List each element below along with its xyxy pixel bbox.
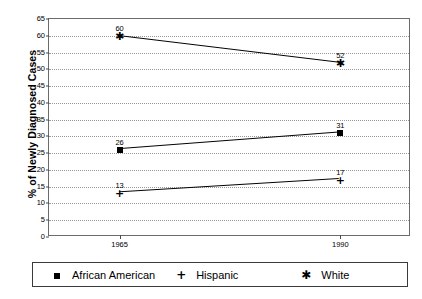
data-point-label: 52 xyxy=(336,51,344,59)
chart-legend: African American + Hispanic ✱ White xyxy=(32,262,408,287)
data-point-label: 26 xyxy=(115,138,123,146)
y-tick-label: 35 xyxy=(37,116,45,124)
legend-label: White xyxy=(321,269,349,281)
series-line-1 xyxy=(119,179,339,192)
x-tick-mark xyxy=(120,235,121,239)
chart-figure: % of Newly Diagnosed Cases 0510152025303… xyxy=(0,0,422,299)
series-line-2 xyxy=(119,36,339,63)
x-tick-label: 1965 xyxy=(111,241,128,249)
y-tick-label: 45 xyxy=(37,82,45,90)
data-point-label: 17 xyxy=(336,168,344,176)
x-tick-label: 1990 xyxy=(332,241,349,249)
data-point-label: 60 xyxy=(115,24,123,32)
y-tick-mark xyxy=(46,237,49,238)
filled-square-icon xyxy=(47,269,67,281)
asterisk-icon: ✱ xyxy=(296,269,316,281)
y-tick-label: 55 xyxy=(37,49,45,57)
y-tick-label: 0 xyxy=(41,233,45,241)
y-tick-label: 25 xyxy=(37,149,45,157)
legend-label: African American xyxy=(72,269,155,281)
legend-item-hispanic: + Hispanic xyxy=(171,269,238,281)
y-tick-label: 50 xyxy=(37,66,45,74)
y-tick-label: 10 xyxy=(37,200,45,208)
y-tick-label: 65 xyxy=(37,15,45,23)
y-tick-label: 20 xyxy=(37,166,45,174)
data-point-label: 31 xyxy=(336,122,344,130)
plot-area: 05101520253035404550556065 19651990 ++✱✱… xyxy=(48,18,410,236)
legend-item-white: ✱ White xyxy=(296,269,349,281)
y-tick-label: 15 xyxy=(37,183,45,191)
x-tick-mark xyxy=(340,235,341,239)
series-line-0 xyxy=(119,132,339,149)
series-lines xyxy=(49,19,409,235)
data-point-marker xyxy=(117,147,123,153)
plus-icon: + xyxy=(171,269,191,281)
data-point-marker xyxy=(337,130,343,136)
y-tick-label: 5 xyxy=(41,216,45,224)
y-tick-label: 40 xyxy=(37,99,45,107)
y-tick-label: 30 xyxy=(37,133,45,141)
y-tick-label: 60 xyxy=(37,32,45,40)
data-point-label: 13 xyxy=(115,182,123,190)
legend-item-african-american: African American xyxy=(47,269,155,281)
legend-label: Hispanic xyxy=(196,269,238,281)
